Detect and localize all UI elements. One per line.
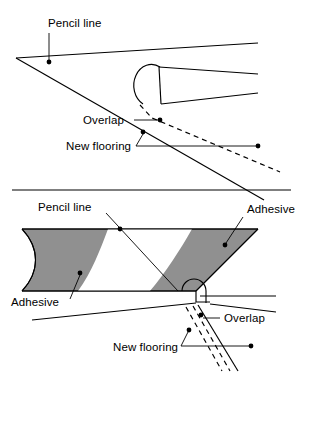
upper-pencil-line bbox=[16, 58, 264, 200]
flooring-roll-bottom-line bbox=[161, 93, 258, 104]
upper-panel-group: Pencil line Overlap New flooring bbox=[16, 17, 280, 200]
lower-panel-group: Pencil line Adhesive Adhesive Overlap Ne… bbox=[11, 201, 295, 371]
lower-adhesive-left-dot bbox=[78, 271, 83, 276]
lower-adhesive-right-dot bbox=[223, 243, 228, 248]
lower-overlap-label: Overlap bbox=[224, 312, 265, 324]
upper-new-flooring-leader bbox=[136, 134, 257, 146]
flooring-installation-diagram: Pencil line Overlap New flooring bbox=[0, 0, 316, 421]
lower-new-flooring-label: New flooring bbox=[113, 341, 178, 353]
lower-adhesive-label-left: Adhesive bbox=[11, 296, 59, 308]
lower-adhesive-label-right: Adhesive bbox=[247, 203, 295, 215]
upper-pencil-line-dot bbox=[47, 60, 52, 65]
figure-root: Pencil line Overlap New flooring bbox=[0, 0, 316, 421]
flooring-roll-top-line bbox=[159, 67, 258, 74]
upper-new-flooring-dot-right bbox=[256, 144, 261, 149]
upper-new-flooring-label: New flooring bbox=[66, 140, 131, 152]
flooring-roll-right-edge bbox=[159, 67, 161, 104]
lower-pencil-line-label: Pencil line bbox=[38, 201, 92, 213]
upper-overlap-dot bbox=[158, 118, 163, 123]
lower-new-flooring-dot-right bbox=[249, 344, 254, 349]
lower-new-flooring-dashed-edge-2 bbox=[186, 307, 222, 371]
upper-new-flooring-dot-left bbox=[141, 130, 146, 135]
lower-pencil-line-dot bbox=[118, 227, 123, 232]
upper-pencil-line-label: Pencil line bbox=[48, 17, 102, 29]
upper-far-edge-line bbox=[16, 43, 258, 58]
upper-overlap-label: Overlap bbox=[83, 114, 124, 126]
flooring-lower-surface-line bbox=[210, 304, 276, 312]
lower-overlap-dot bbox=[199, 313, 204, 318]
flooring-roll-endcap bbox=[134, 64, 160, 104]
lower-new-flooring-dot-left bbox=[187, 328, 192, 333]
upper-new-flooring-dashed-edge bbox=[140, 105, 280, 172]
